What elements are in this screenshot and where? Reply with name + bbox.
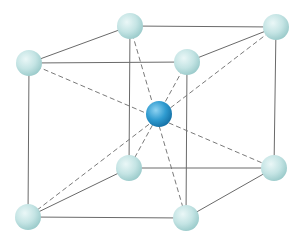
center-atom (146, 101, 172, 127)
corner-atom-back-top-left (117, 13, 143, 39)
bcc-unit-cell-diagram (0, 0, 304, 242)
cube-edge (29, 62, 187, 63)
corner-atom-back-bottom-right (261, 155, 287, 181)
cube-edge (187, 27, 276, 62)
cube-edge (129, 26, 130, 168)
cube-edge (29, 26, 130, 63)
corner-atom-front-bottom-right (173, 205, 199, 231)
cube-edge (274, 27, 276, 168)
corner-atom-front-top-right (174, 49, 200, 75)
corner-atom-back-bottom-left (116, 155, 142, 181)
corner-atom-back-top-right (263, 14, 289, 40)
corner-atom-front-bottom-left (15, 204, 41, 230)
cube-edge (28, 168, 129, 217)
corner-atom-front-top-left (16, 50, 42, 76)
cube-edge (186, 168, 274, 218)
atoms (15, 13, 289, 231)
cube-edge (28, 217, 186, 218)
cube-edge (28, 63, 29, 217)
cube-edge (186, 62, 187, 218)
cube-edge (130, 26, 276, 27)
lattice-canvas (0, 0, 304, 242)
